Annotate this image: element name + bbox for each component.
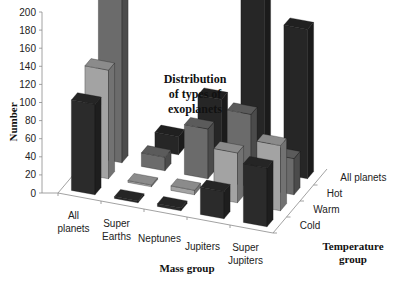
bar-side-face [281,138,287,210]
bar-hot [141,146,171,171]
x-category-label: Jupiters [185,241,220,252]
z-category-label: All planets [340,172,386,183]
bar-side-face [109,63,115,179]
bar-cold [71,93,101,195]
x-category-label: Earths [102,231,131,242]
bar-side-face [208,122,214,179]
y-tick-label: 160 [19,43,36,54]
bar-warm [171,179,201,195]
y-tick-label: 140 [19,61,36,72]
y-tick-label: 180 [19,25,36,36]
bar-front-face [184,125,208,179]
bar-front-face [71,100,95,195]
x-category-label: Jupiters [228,255,263,266]
bar-front-face [243,164,267,227]
bar-side-face [95,97,101,195]
chart-title-line-2: of types of [169,87,223,101]
bar-side-face [122,0,128,163]
chart-title-line-3: exoplanets [168,102,222,116]
bar-warm [128,173,158,186]
bar-cold [200,180,230,219]
bar-hot [184,117,214,178]
bar-front-face [200,187,224,219]
x-category-label: Super [232,242,259,253]
bar-cold [114,189,144,202]
bar-side-face [267,161,273,227]
bar-side-face [294,151,300,194]
y-tick-label: 80 [25,115,37,126]
bar-side-face [238,146,244,203]
z-category-label: Warm [313,204,339,215]
z-axis-title-line-2: group [339,253,367,265]
x-category-label: All [68,210,79,221]
y-tick-label: 120 [19,79,36,90]
z-axis-title-line-1: Temperature [322,240,383,252]
x-category-label: planets [57,223,89,234]
y-tick-label: 40 [25,151,37,162]
x-axis-title: Mass group [159,262,214,274]
z-category-label: Cold [300,220,321,231]
y-tick-label: 20 [25,169,37,180]
bar-cold [243,156,273,226]
exoplanet-3d-bar-chart: 020406080100120140160180200AllplanetsSup… [0,0,399,288]
y-tick-label: 0 [30,188,36,199]
z-category-label: Hot [327,188,343,199]
x-category-label: Neptunes [138,233,181,244]
x-category-label: Super [103,218,130,229]
bar-side-face [308,22,314,179]
y-tick-label: 200 [19,7,36,18]
y-tick-label: 100 [19,97,36,108]
y-tick-label: 60 [25,133,37,144]
chart-title-line-1: Distribution [164,72,227,86]
y-axis-title: Number [7,102,19,141]
bar-cold [157,197,187,211]
